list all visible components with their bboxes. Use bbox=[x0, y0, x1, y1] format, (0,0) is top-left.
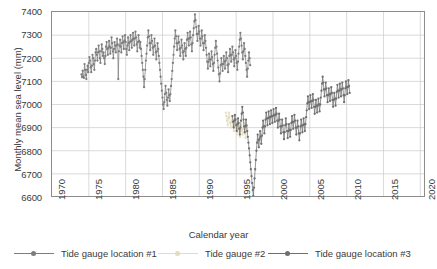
y-axis-tick-label: 6900 bbox=[21, 122, 42, 133]
series-line bbox=[80, 13, 251, 110]
legend-swatch-icon bbox=[158, 248, 198, 258]
y-axis-tick-label: 7100 bbox=[21, 75, 42, 86]
chart-legend: Tide gauge location #1Tide gauge #2Tide … bbox=[0, 243, 437, 263]
legend-swatch-icon bbox=[268, 248, 308, 258]
legend-label: Tide gauge location #1 bbox=[61, 248, 157, 259]
plot-area-wrapper bbox=[51, 11, 425, 197]
y-axis-tick-label: 6600 bbox=[21, 192, 42, 203]
legend-label: Tide gauge location #3 bbox=[315, 248, 411, 259]
plot-area bbox=[51, 11, 425, 197]
x-axis-tick-label: 1995 bbox=[241, 179, 252, 200]
legend-item[interactable]: Tide gauge location #1 bbox=[14, 248, 157, 259]
x-axis-tick-label: 2020 bbox=[426, 179, 437, 200]
y-axis-tick-label: 6800 bbox=[21, 145, 42, 156]
legend-item[interactable]: Tide gauge location #3 bbox=[268, 248, 411, 259]
x-axis-tick-label: 2015 bbox=[389, 179, 400, 200]
y-axis-tick-label: 7300 bbox=[21, 29, 42, 40]
x-axis-tick-label: 2005 bbox=[315, 179, 326, 200]
legend-item[interactable]: Tide gauge #2 bbox=[158, 248, 265, 259]
x-axis-title: Calendar year bbox=[0, 229, 437, 240]
y-axis-tick-label: 7000 bbox=[21, 99, 42, 110]
x-axis-tick-label: 2010 bbox=[352, 179, 363, 200]
y-axis-tick-label: 6700 bbox=[21, 168, 42, 179]
y-axis-tick-label: 7200 bbox=[21, 52, 42, 63]
chart-figure: 740073007200710070006900680067006600 Mon… bbox=[0, 0, 437, 269]
data-series-layer bbox=[52, 12, 424, 197]
legend-label: Tide gauge #2 bbox=[205, 248, 265, 259]
x-axis-tick-label: 1975 bbox=[93, 179, 104, 200]
x-axis-tick-label: 1990 bbox=[204, 179, 215, 200]
legend-swatch-icon bbox=[14, 248, 54, 258]
y-axis-tick-label: 7400 bbox=[21, 6, 42, 17]
x-axis-tick-label: 1980 bbox=[130, 179, 141, 200]
x-axis-tick-label: 1970 bbox=[56, 179, 67, 200]
x-axis-tick-label: 2000 bbox=[278, 179, 289, 200]
y-axis-title: Monthly mean sea level (mm) bbox=[12, 35, 23, 185]
x-axis-tick-labels: 1970197519801985199019952000200520102015… bbox=[51, 200, 425, 228]
y-axis-tick-labels: 740073007200710070006900680067006600 bbox=[0, 11, 47, 197]
x-axis-tick-label: 1985 bbox=[167, 179, 178, 200]
